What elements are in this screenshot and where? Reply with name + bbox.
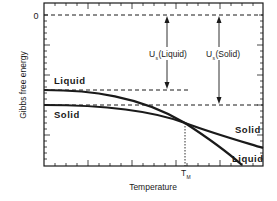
top-axis-ticks — [55, 3, 253, 9]
svg-text:M: M — [187, 174, 191, 180]
liquid-label-left: Liquid — [54, 75, 86, 86]
us-liquid-label: U s (Liquid) — [149, 49, 187, 61]
svg-text:T: T — [181, 168, 186, 178]
arrow-up-icon — [165, 16, 170, 23]
svg-text:(Solid): (Solid) — [216, 49, 241, 59]
y-tick-zero: 0 — [33, 11, 38, 21]
liquid-curve — [44, 90, 242, 165]
arrow-down-icon — [217, 97, 222, 104]
us-solid-arrow — [217, 16, 222, 104]
svg-text:U: U — [149, 49, 155, 59]
y-axis-label: Gibbs free energy — [18, 50, 28, 118]
right-axis-ticks — [257, 15, 263, 159]
arrow-up-icon — [217, 16, 222, 23]
left-axis-ticks — [44, 15, 50, 159]
solid-label-left: Solid — [54, 109, 80, 120]
svg-text:U: U — [206, 49, 212, 59]
solid-label-right: Solid — [235, 124, 261, 135]
arrow-down-icon — [165, 82, 170, 89]
tm-tick-label: T M — [181, 168, 191, 180]
liquid-label-right: Liquid — [232, 153, 264, 164]
x-axis-label: Temperature — [129, 182, 177, 192]
bottom-axis-ticks — [55, 160, 253, 166]
gibbs-energy-chart: 0 Gibbs free energy Temperature Liquid S… — [0, 0, 277, 201]
svg-text:(Liquid): (Liquid) — [159, 49, 188, 59]
us-solid-label: U s (Solid) — [206, 49, 240, 61]
